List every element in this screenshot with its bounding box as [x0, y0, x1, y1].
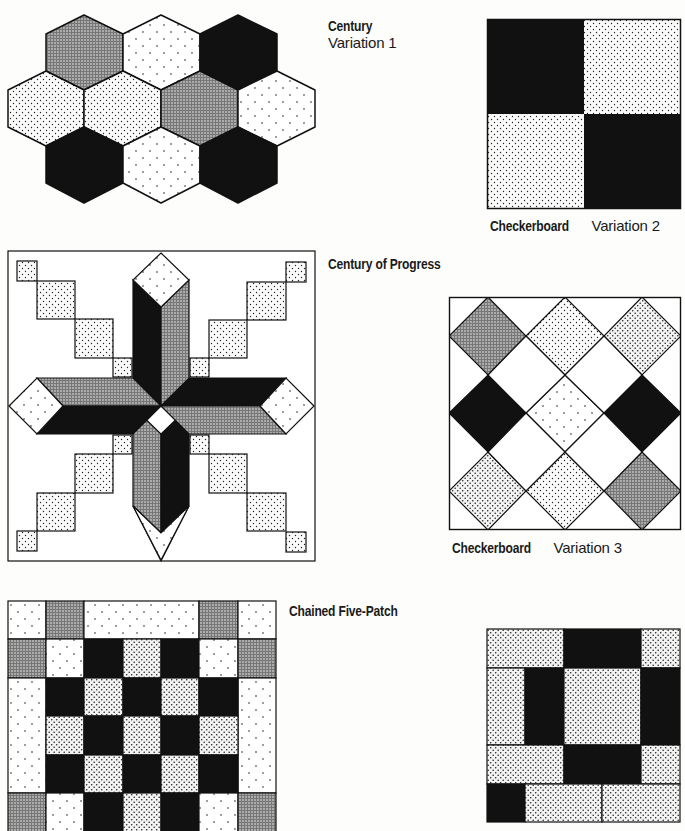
- chained-five-patch-diagram: [8, 601, 277, 831]
- century-variation-label: Variation 1: [328, 34, 396, 51]
- checkerboard-variation-3-diagram: [449, 297, 682, 531]
- checkerboard-v2-caption: Checkerboard Variation 2: [490, 217, 660, 235]
- checkerboard-v3-caption: Checkerboard Variation 3: [452, 539, 622, 557]
- century-of-progress-diagram: [0, 240, 330, 570]
- century-of-progress-title: Century of Progress: [328, 256, 459, 273]
- rail-block-diagram: [487, 629, 681, 823]
- century-title: Century: [328, 18, 380, 35]
- checkerboard-variation-2-diagram: [487, 19, 682, 210]
- chained-five-patch-title: Chained Five-Patch: [289, 603, 415, 620]
- century-variation-1-diagram: [0, 0, 320, 210]
